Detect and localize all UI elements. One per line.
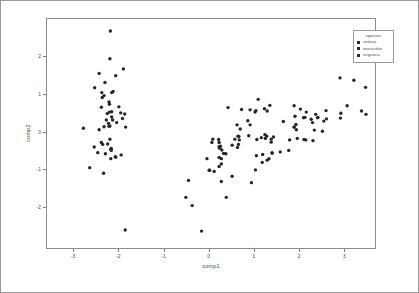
data-point (239, 127, 242, 130)
x-tick-mark (254, 249, 255, 252)
data-point (100, 141, 103, 144)
y-tick-mark (43, 207, 46, 208)
data-point (104, 152, 107, 155)
data-point (220, 162, 223, 165)
data-point (313, 128, 316, 131)
data-point (230, 143, 233, 146)
legend-item-label: virginica (363, 52, 380, 58)
data-point (255, 154, 258, 157)
data-point (237, 143, 240, 146)
data-point (261, 153, 264, 156)
data-point (292, 104, 295, 107)
data-point (338, 76, 341, 79)
data-point (111, 90, 114, 93)
data-point (110, 110, 113, 113)
data-point (115, 121, 118, 124)
data-point (97, 128, 100, 131)
scatter-points-layer (47, 19, 375, 248)
y-tick-label: -2 (37, 204, 41, 210)
data-point (88, 166, 91, 169)
data-point (256, 98, 259, 101)
data-point (230, 175, 233, 178)
data-point (240, 108, 243, 111)
data-point (339, 116, 342, 119)
data-point (325, 117, 328, 120)
x-tick-label: 3 (343, 253, 346, 259)
data-point (211, 137, 214, 140)
series-virginica (230, 76, 375, 178)
x-tick-mark (164, 249, 165, 252)
plot-panel (46, 18, 376, 249)
data-point (250, 181, 253, 184)
data-point (295, 128, 298, 131)
y-tick-label: 0 (38, 129, 41, 135)
data-point (219, 145, 222, 148)
data-point (364, 86, 367, 89)
x-tick-mark (344, 249, 345, 252)
data-point (102, 172, 105, 175)
data-point (190, 204, 193, 207)
data-point (187, 179, 190, 182)
data-point (324, 109, 327, 112)
data-point (311, 139, 314, 142)
data-point (287, 149, 290, 152)
data-point (100, 106, 103, 109)
data-point (107, 100, 110, 103)
data-point (270, 140, 273, 143)
data-point (364, 113, 367, 116)
data-point (261, 161, 264, 164)
figure-container: -3-2-10123 -2-1012 comp1 comp2 species s… (0, 0, 419, 293)
data-point (248, 108, 251, 111)
data-point (184, 196, 187, 199)
data-point (235, 123, 238, 126)
legend-item-virginica[interactable]: virginica (357, 52, 390, 59)
data-point (93, 86, 96, 89)
x-axis-label: comp1 (202, 263, 220, 269)
data-point (237, 135, 240, 138)
x-tick-label: -3 (71, 253, 75, 259)
x-tick-label: 2 (298, 253, 301, 259)
y-tick-label: 1 (38, 91, 41, 97)
data-point (117, 105, 120, 108)
legend-item-label: versicolor (363, 46, 382, 52)
data-point (208, 169, 211, 172)
data-point (236, 146, 239, 149)
data-point (119, 111, 122, 114)
data-point (254, 168, 257, 171)
y-tick-mark (43, 169, 46, 170)
data-point (217, 165, 220, 168)
legend-marker-icon (357, 41, 360, 44)
x-tick-mark (73, 249, 74, 252)
legend-marker-icon (357, 47, 360, 50)
data-point (293, 115, 296, 118)
data-point (310, 118, 313, 121)
x-tick-label: 0 (207, 253, 210, 259)
data-point (82, 127, 85, 130)
data-point (282, 120, 285, 123)
data-point (210, 141, 213, 144)
legend-entries: setosaversicolorvirginica (357, 39, 390, 59)
x-tick-mark (118, 249, 119, 252)
data-point (110, 115, 113, 118)
data-point (311, 121, 314, 124)
x-tick-label: -2 (116, 253, 120, 259)
y-tick-label: -1 (37, 166, 41, 172)
data-point (270, 151, 273, 154)
data-point (119, 153, 122, 156)
y-tick-mark (43, 94, 46, 95)
data-point (96, 151, 99, 154)
data-point (304, 138, 307, 141)
data-point (109, 157, 112, 160)
data-point (205, 157, 208, 160)
y-tick-mark (43, 132, 46, 133)
y-axis-label: comp2 (25, 124, 31, 142)
data-point (265, 134, 268, 137)
legend: species setosaversicolorvirginica (353, 30, 394, 63)
data-point (124, 125, 127, 128)
legend-item-label: setosa (363, 39, 376, 45)
data-point (360, 109, 363, 112)
data-point (108, 57, 111, 60)
data-point (106, 142, 109, 145)
data-point (268, 104, 271, 107)
x-tick-mark (209, 249, 210, 252)
